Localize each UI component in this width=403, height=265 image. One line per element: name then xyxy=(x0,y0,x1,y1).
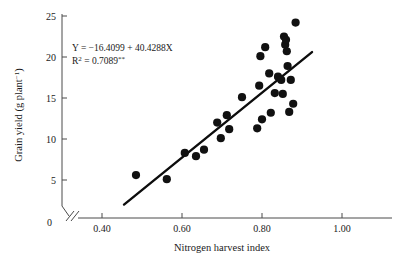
data-point xyxy=(217,134,225,142)
y-axis-group xyxy=(62,14,69,216)
x-axis-group xyxy=(66,211,392,221)
figure-container: 25 20 15 10 5 0 0.40 0.60 0.80 1.00 Grai… xyxy=(0,0,403,265)
data-point xyxy=(261,43,269,51)
data-point xyxy=(181,149,189,157)
y-tick-label-25: 25 xyxy=(46,11,56,22)
y-tick-label-5: 5 xyxy=(51,175,56,186)
data-point xyxy=(287,76,295,84)
y-tick-marks xyxy=(62,16,67,180)
data-point xyxy=(267,109,275,117)
annotation-block: Y = −16.4099 + 40.4288X R2 = 0.7089** xyxy=(72,43,173,66)
x-axis-title: Nitrogen harvest index xyxy=(174,242,271,253)
x-tick-label-0.60: 0.60 xyxy=(173,223,191,234)
data-point xyxy=(192,152,200,160)
y-tick-label-20: 20 xyxy=(46,52,56,63)
y-tick-label-15: 15 xyxy=(46,93,56,104)
x-tick-marks xyxy=(102,213,342,218)
data-point xyxy=(285,108,293,116)
data-point xyxy=(213,119,221,127)
y-axis-title-close: ) xyxy=(13,68,25,72)
data-point xyxy=(271,89,279,97)
data-point xyxy=(255,82,263,90)
data-point xyxy=(279,90,287,98)
data-point xyxy=(258,115,266,123)
r-squared-text: R2 = 0.7089** xyxy=(72,55,126,67)
data-point xyxy=(132,171,140,179)
data-point xyxy=(200,146,208,154)
y-axis-title-main: Grain yield (g plant xyxy=(13,79,25,162)
data-point xyxy=(253,124,261,132)
y-axis-title-group: Grain yield (g plant−1) xyxy=(13,68,26,162)
data-point xyxy=(282,36,290,44)
x-tick-label-1.00: 1.00 xyxy=(333,223,351,234)
regression-line xyxy=(124,52,312,205)
data-point xyxy=(265,69,273,77)
x-tick-label-0.40: 0.40 xyxy=(93,223,111,234)
x-tick-label-0.80: 0.80 xyxy=(253,223,271,234)
data-point xyxy=(283,47,291,55)
x-tick-labels: 0.40 0.60 0.80 1.00 xyxy=(93,223,351,234)
data-point xyxy=(292,18,300,26)
data-point xyxy=(223,111,231,119)
y-axis-title: Grain yield (g plant−1) xyxy=(13,68,26,162)
r-squared-value: = 0.7089 xyxy=(82,56,118,66)
data-point xyxy=(163,175,171,183)
data-point xyxy=(277,76,285,84)
data-point xyxy=(284,62,292,70)
data-point xyxy=(238,93,246,101)
y-tick-labels: 25 20 15 10 5 0 xyxy=(46,11,56,228)
regression-equation-text: Y = −16.4099 + 40.4288X xyxy=(72,43,173,53)
r-squared-significance: ** xyxy=(118,55,126,63)
y-tick-label-0: 0 xyxy=(47,217,52,228)
scatter-plot: 25 20 15 10 5 0 0.40 0.60 0.80 1.00 Grai… xyxy=(0,0,403,265)
y-axis-break-lower xyxy=(62,206,69,216)
data-point xyxy=(289,100,297,108)
data-point xyxy=(256,52,264,60)
data-point xyxy=(225,125,233,133)
y-tick-label-10: 10 xyxy=(46,134,56,145)
